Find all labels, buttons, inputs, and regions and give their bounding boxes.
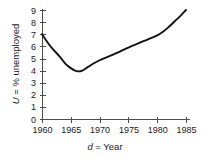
x-tick-label: 1980	[148, 125, 168, 135]
y-tick-label: 0	[31, 115, 36, 125]
y-tick-label: 7	[31, 30, 36, 40]
unemployment-line-chart: 0 1 2 3 4 5 6 7 8 9 1960 1965 1970 1975 …	[0, 0, 203, 157]
x-axis-title-rest: = Year	[93, 141, 123, 152]
y-tick-label: 1	[31, 102, 36, 112]
chart-figure: 0 1 2 3 4 5 6 7 8 9 1960 1965 1970 1975 …	[0, 0, 203, 157]
y-tick-label: 2	[31, 90, 36, 100]
y-tick-label: 5	[31, 54, 36, 64]
y-tick-labels: 0 1 2 3 4 5 6 7 8 9	[31, 6, 36, 125]
y-tick-label: 6	[31, 42, 36, 52]
unemployment-curve	[42, 10, 186, 71]
x-tick-label: 1965	[61, 125, 81, 135]
y-axis-title-rest: = % unemployed	[10, 24, 21, 98]
x-tick-label: 1960	[32, 125, 52, 135]
x-axis-title: d = Year	[87, 141, 122, 152]
x-tick-labels: 1960 1965 1970 1975 1980 1985	[32, 125, 196, 135]
y-tick-label: 9	[31, 6, 36, 16]
x-tick-label: 1985	[176, 125, 196, 135]
y-axis-title: U = % unemployed	[10, 24, 21, 105]
y-tick-label: 4	[31, 66, 36, 76]
x-tick-label: 1975	[119, 125, 139, 135]
y-tick-label: 3	[31, 78, 36, 88]
y-tick-label: 8	[31, 18, 36, 28]
x-tick-label: 1970	[90, 125, 110, 135]
